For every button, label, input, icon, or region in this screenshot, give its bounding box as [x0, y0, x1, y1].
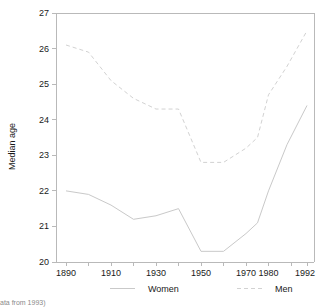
x-tick-label: 1992 [295, 268, 315, 278]
y-tick-label: 26 [39, 44, 49, 54]
x-tick-label: 1980 [258, 268, 278, 278]
chart-footnote: ata from 1993) [0, 299, 46, 307]
x-tick-label: 1970 [236, 268, 256, 278]
median-age-line-chart: Median age 27 26 25 24 23 22 21 20 [0, 0, 322, 307]
y-axis-title-text: Median age [7, 123, 17, 170]
y-tick-label: 22 [39, 186, 49, 196]
y-tick-label: 20 [39, 257, 49, 267]
y-tick-label: 23 [39, 150, 49, 160]
legend-label-men: Men [275, 284, 293, 294]
y-tick-label: 25 [39, 79, 49, 89]
x-tick-label: 1930 [146, 268, 166, 278]
x-tick-label: 1910 [101, 268, 121, 278]
legend-label-women: Women [148, 284, 179, 294]
x-tick-label: 1950 [191, 268, 211, 278]
y-tick-label: 24 [39, 115, 49, 125]
x-tick-label: 1890 [56, 268, 76, 278]
y-axis-title: Median age [7, 123, 17, 170]
chart-container: Median age 27 26 25 24 23 22 21 20 [0, 0, 322, 307]
y-tick-label: 27 [39, 8, 49, 18]
y-tick-label: 21 [39, 221, 49, 231]
